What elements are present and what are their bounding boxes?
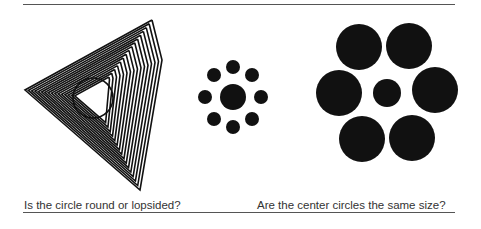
bottom-rule (23, 212, 455, 213)
caption-left: Is the circle round or lopsided? (24, 199, 181, 211)
ebbinghaus-small-surround (198, 60, 268, 134)
illusion-drawings (0, 0, 481, 229)
lopsided-circle-illusion (25, 20, 162, 190)
ebbinghaus-large-surround (316, 23, 458, 162)
illusion-figure: Is the circle round or lopsided? Are the… (0, 0, 481, 229)
caption-right: Are the center circles the same size? (257, 199, 446, 211)
